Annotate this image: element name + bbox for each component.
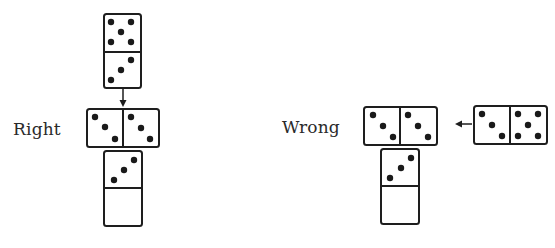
right-domino-5-3 (104, 14, 141, 88)
arrow-down-icon (120, 88, 127, 107)
right-domino-3-3 (87, 109, 159, 147)
wrong-domino-3-3 (364, 107, 437, 145)
wrong-domino-3-blank (381, 149, 419, 224)
arrow-left-icon (455, 121, 472, 128)
domino-diagram (0, 0, 555, 248)
right-domino-3-blank (104, 151, 142, 226)
wrong-domino-3-5 (474, 106, 547, 144)
